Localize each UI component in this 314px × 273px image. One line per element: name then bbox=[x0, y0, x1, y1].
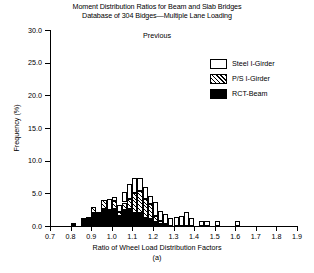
x-tick-mark bbox=[91, 226, 92, 231]
bar-segment-steel bbox=[112, 197, 117, 201]
y-tick-label: 10.0 bbox=[8, 156, 42, 165]
y-tick-label: 20.0 bbox=[8, 91, 42, 100]
y-tick-mark bbox=[45, 63, 50, 64]
legend-label: P/S I-Girder bbox=[232, 74, 270, 83]
x-tick-mark bbox=[50, 226, 51, 231]
histogram-bar bbox=[204, 221, 209, 226]
x-tick-mark bbox=[112, 226, 113, 231]
legend-swatch-ps bbox=[210, 74, 227, 84]
chart-figure: Moment Distribution Ratios for Beam and … bbox=[0, 0, 314, 273]
y-tick-mark bbox=[45, 30, 50, 31]
legend-label: Steel I-Girder bbox=[232, 59, 275, 68]
legend-swatch-steel bbox=[210, 59, 227, 69]
x-tick-mark bbox=[276, 226, 277, 231]
x-tick-mark bbox=[297, 226, 298, 231]
x-tick-mark bbox=[132, 226, 133, 231]
x-tick-mark bbox=[174, 226, 175, 231]
x-tick-mark bbox=[235, 226, 236, 231]
bar-segment-steel bbox=[204, 221, 209, 226]
x-axis-title: Ratio of Wheel Load Distribution Factors bbox=[0, 243, 314, 252]
legend-swatch-rct bbox=[210, 89, 227, 99]
y-tick-mark bbox=[45, 161, 50, 162]
histogram-bar bbox=[189, 218, 194, 226]
y-tick-label: 0.0 bbox=[8, 222, 42, 231]
y-tick-label: 30.0 bbox=[8, 26, 42, 35]
y-tick-label: 25.0 bbox=[8, 58, 42, 67]
chart-title-line-2: Database of 304 Bidges—Multiple Lane Loa… bbox=[0, 12, 314, 21]
y-tick-label: 5.0 bbox=[8, 189, 42, 198]
y-tick-mark bbox=[45, 95, 50, 96]
y-tick-mark bbox=[45, 128, 50, 129]
x-tick-label: 1.9 bbox=[285, 232, 309, 241]
x-tick-mark bbox=[215, 226, 216, 231]
panel-label: (a) bbox=[0, 253, 314, 262]
x-tick-mark bbox=[256, 226, 257, 231]
x-tick-mark bbox=[71, 226, 72, 231]
chart-title: Moment Distribution Ratios for Beam and … bbox=[0, 3, 314, 20]
legend-label: RCT-Beam bbox=[232, 89, 268, 98]
x-tick-mark bbox=[194, 226, 195, 231]
bar-segment-steel bbox=[189, 218, 194, 226]
y-axis-title: Frequency (%) bbox=[12, 104, 21, 151]
y-tick-mark bbox=[45, 193, 50, 194]
x-tick-mark bbox=[153, 226, 154, 231]
